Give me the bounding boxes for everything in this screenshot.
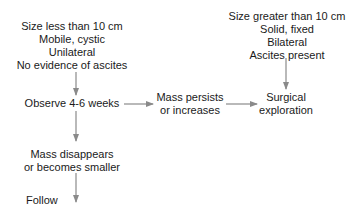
disappears-line-1: Mass disappears [20, 148, 124, 161]
malignant-line-1: Size greater than 10 cm [222, 10, 352, 23]
follow-node: Follow [26, 194, 58, 207]
malignant-line-2: Solid, fixed [222, 23, 352, 36]
surgical-exploration-node: Surgical exploration [256, 91, 316, 117]
malignant-line-4: Ascites present [222, 49, 352, 62]
mass-disappears-node: Mass disappears or becomes smaller [20, 148, 124, 174]
persists-line-2: or increases [152, 104, 228, 117]
observe-node: Observe 4-6 weeks [22, 97, 122, 110]
malignant-criteria-node: Size greater than 10 cm Solid, fixed Bil… [222, 10, 352, 62]
benign-line-1: Size less than 10 cm [12, 20, 132, 33]
benign-line-4: No evidence of ascites [12, 59, 132, 72]
surgical-line-2: exploration [256, 104, 316, 117]
disappears-line-2: or becomes smaller [20, 161, 124, 174]
benign-line-3: Unilateral [12, 46, 132, 59]
mass-persists-node: Mass persists or increases [152, 91, 228, 117]
malignant-line-3: Bilateral [222, 36, 352, 49]
benign-line-2: Mobile, cystic [12, 33, 132, 46]
observe-line-1: Observe 4-6 weeks [22, 97, 122, 110]
follow-line-1: Follow [26, 194, 58, 207]
benign-criteria-node: Size less than 10 cm Mobile, cystic Unil… [12, 20, 132, 72]
persists-line-1: Mass persists [152, 91, 228, 104]
surgical-line-1: Surgical [256, 91, 316, 104]
